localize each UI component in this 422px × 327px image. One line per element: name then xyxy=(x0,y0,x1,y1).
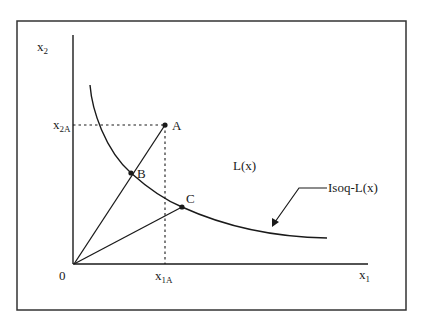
x2a-tick-label: x2A xyxy=(53,117,71,134)
point-a xyxy=(162,122,167,127)
x1a-tick-label: x1A xyxy=(155,268,173,285)
point-b-label: B xyxy=(137,166,146,181)
ray-origin-to-a xyxy=(74,125,165,264)
point-c-label: C xyxy=(186,191,195,206)
x-axis-label: x1 xyxy=(359,267,370,284)
isoquant-diagram: A B C x2 x1 0 x2A x1A L(x) Isoq-L(x) xyxy=(0,0,422,327)
point-a-label: A xyxy=(172,118,182,133)
point-b xyxy=(128,170,133,175)
point-c xyxy=(179,204,184,209)
isoquant-curve xyxy=(90,85,327,238)
ray-origin-to-c xyxy=(74,207,182,264)
origin-label: 0 xyxy=(59,268,66,283)
region-label: L(x) xyxy=(233,158,256,173)
arrowhead-icon xyxy=(272,218,279,227)
diagram-frame xyxy=(17,21,406,310)
curve-label-leader xyxy=(275,188,327,222)
y-axis-label: x2 xyxy=(37,39,48,56)
curve-label: Isoq-L(x) xyxy=(328,180,378,195)
